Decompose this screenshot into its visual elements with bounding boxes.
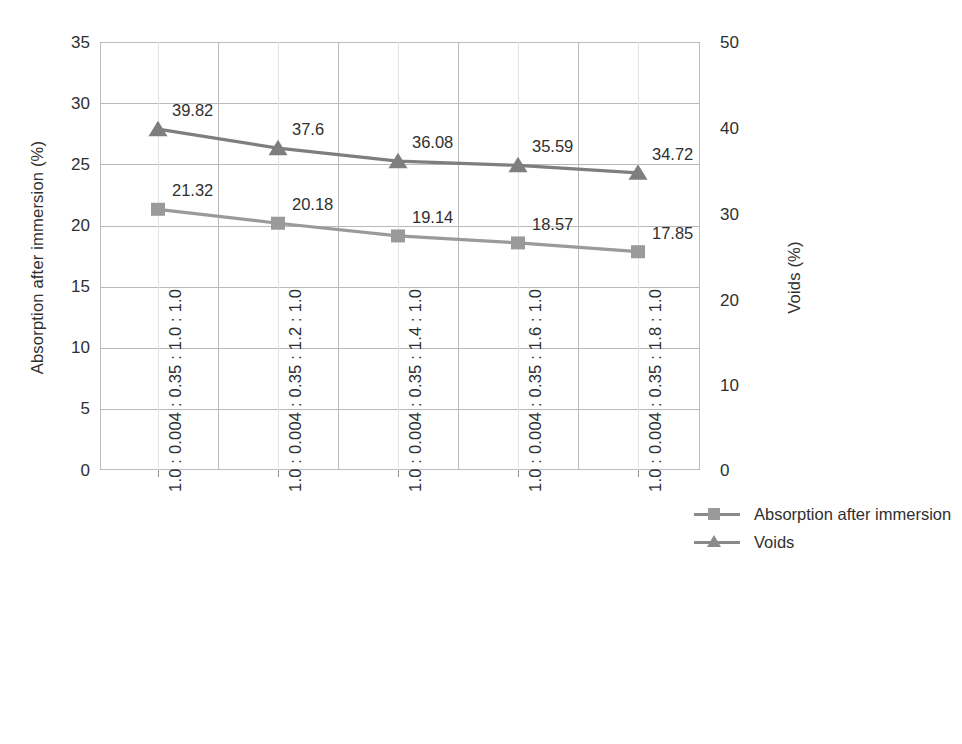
y-right-tick: 20: [720, 292, 760, 309]
x-axis-tickmark: [398, 470, 399, 477]
legend-item-voids[interactable]: Voids: [694, 528, 959, 556]
data-point-label: 17.85: [652, 225, 693, 242]
data-point-label: 18.57: [532, 216, 573, 233]
x-axis-category-label: 1.0 : 0.004 : 0.35 : 1.8 : 1.0: [646, 289, 665, 492]
data-point-label: 37.6: [292, 121, 324, 138]
x-axis-tickmark: [278, 470, 279, 477]
x-axis-tickmark: [158, 470, 159, 477]
legend-label: Voids: [740, 533, 794, 552]
data-point-label: 20.18: [292, 196, 333, 213]
x-axis-category-label: 1.0 : 0.004 : 0.35 : 1.0 : 1.0: [166, 289, 185, 492]
y-right-tick: 0: [720, 462, 760, 479]
chart-container: Absorption after immersion (%) Voids (%)…: [0, 0, 962, 744]
square-marker-icon: [694, 505, 740, 523]
y-left-tick: 30: [50, 95, 90, 112]
data-point-label: 39.82: [172, 102, 213, 119]
x-axis-tickmark: [638, 470, 639, 477]
y-right-tick: 40: [720, 120, 760, 137]
chart-legend: Absorption after immersion Voids: [694, 500, 959, 556]
x-axis-category-label: 1.0 : 0.004 : 0.35 : 1.6 : 1.0: [526, 289, 545, 492]
triangle-marker-icon: [694, 533, 740, 551]
y-left-tick: 5: [50, 400, 90, 417]
x-axis-category-label: 1.0 : 0.004 : 0.35 : 1.2 : 1.0: [286, 289, 305, 492]
plot-area: 21.3220.1819.1418.5717.8539.8237.636.083…: [100, 42, 700, 470]
y-right-tick: 30: [720, 206, 760, 223]
data-point-label: 36.08: [412, 134, 453, 151]
x-axis-category-label: 1.0 : 0.004 : 0.35 : 1.4 : 1.0: [406, 289, 425, 492]
y-left-tick: 0: [50, 462, 90, 479]
y-left-tick: 20: [50, 217, 90, 234]
data-point-label: 21.32: [172, 182, 213, 199]
y-axis-right-title: Voids (%): [785, 188, 804, 368]
y-left-tick: 35: [50, 34, 90, 51]
legend-label: Absorption after immersion: [740, 505, 951, 524]
legend-item-absorption[interactable]: Absorption after immersion: [694, 500, 959, 528]
y-left-tick: 25: [50, 156, 90, 173]
y-axis-right-ticks: 50 40 30 20 10 0: [720, 0, 780, 744]
x-axis-tickmark: [518, 470, 519, 477]
y-left-tick: 10: [50, 339, 90, 356]
y-right-tick: 10: [720, 377, 760, 394]
data-labels-layer: 21.3220.1819.1418.5717.8539.8237.636.083…: [100, 42, 700, 470]
data-point-label: 34.72: [652, 146, 693, 163]
data-point-label: 19.14: [412, 209, 453, 226]
y-right-tick: 50: [720, 34, 760, 51]
y-left-tick: 15: [50, 278, 90, 295]
y-axis-left-ticks: 35 30 25 20 15 10 5 0: [28, 0, 90, 744]
data-point-label: 35.59: [532, 138, 573, 155]
